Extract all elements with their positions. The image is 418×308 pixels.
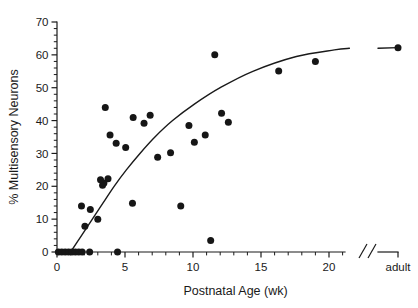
data-point xyxy=(185,122,192,129)
data-point xyxy=(218,110,225,117)
data-point xyxy=(211,51,218,58)
fit-curve xyxy=(71,48,398,252)
data-point xyxy=(122,144,129,151)
y-axis-title: % Multisensory Neurons xyxy=(7,69,21,204)
data-point xyxy=(275,67,282,74)
x-axis-title: Postnatal Age (wk) xyxy=(183,284,287,298)
y-axis: 010203040506070 xyxy=(36,16,57,258)
data-points xyxy=(55,44,402,255)
data-point xyxy=(78,203,85,210)
y-tick-label: 0 xyxy=(42,246,48,258)
data-point xyxy=(105,175,112,182)
data-point xyxy=(191,139,198,146)
data-point xyxy=(147,112,154,119)
fit-curve-main xyxy=(71,48,350,252)
chart-figure: 010203040506070 05101520adult Postnatal … xyxy=(0,0,418,308)
axis-break-slash xyxy=(368,244,376,258)
y-tick-label: 50 xyxy=(36,82,49,94)
data-point xyxy=(79,249,86,256)
y-tick-label: 60 xyxy=(36,49,49,61)
data-point xyxy=(225,119,232,126)
y-tick-label: 20 xyxy=(36,180,49,192)
data-point xyxy=(107,132,114,139)
data-point xyxy=(177,203,184,210)
y-tick-label: 40 xyxy=(36,115,49,127)
data-point xyxy=(167,149,174,156)
data-point xyxy=(154,154,161,161)
x-tick-label: 10 xyxy=(187,261,200,273)
x-tick-label: 20 xyxy=(323,261,336,273)
data-point xyxy=(114,249,121,256)
x-axis: 05101520adult xyxy=(54,244,411,273)
data-point xyxy=(129,200,136,207)
y-tick-label: 10 xyxy=(36,213,49,225)
data-point xyxy=(202,132,209,139)
data-point xyxy=(102,104,109,111)
data-point xyxy=(395,44,402,51)
data-point xyxy=(312,58,319,65)
y-tick-label: 70 xyxy=(36,16,49,28)
x-tick-label-adult: adult xyxy=(386,261,412,273)
data-point xyxy=(141,120,148,127)
data-point xyxy=(87,206,94,213)
data-point xyxy=(97,176,104,183)
data-point xyxy=(94,216,101,223)
data-point xyxy=(113,140,120,147)
data-point xyxy=(86,249,93,256)
scatter-plot: 010203040506070 05101520adult Postnatal … xyxy=(0,0,418,308)
data-point xyxy=(207,237,214,244)
data-point xyxy=(81,223,88,230)
x-tick-label: 5 xyxy=(122,261,128,273)
x-tick-label: 15 xyxy=(255,261,268,273)
x-tick-label: 0 xyxy=(54,261,60,273)
data-point xyxy=(130,114,137,121)
axis-labels: Postnatal Age (wk)% Multisensory Neurons xyxy=(7,69,288,298)
y-tick-label: 30 xyxy=(36,148,49,160)
axis-break-slash xyxy=(359,244,367,258)
